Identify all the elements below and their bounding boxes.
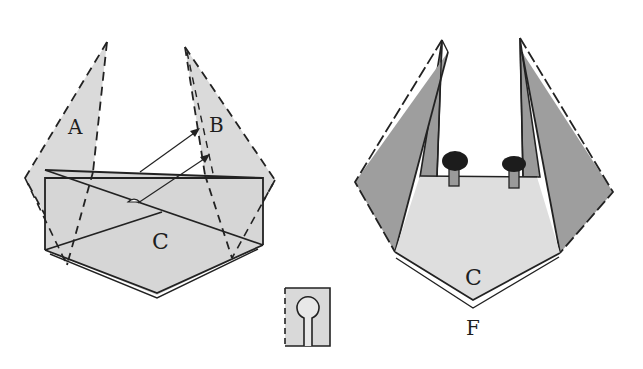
caption-f: F — [466, 316, 480, 340]
label-flap-a: A — [67, 115, 83, 139]
keyhole-fold-symbol — [285, 288, 330, 346]
label-body-c-left: C — [152, 229, 169, 254]
right-step-diagram: C F — [355, 38, 613, 340]
fold-arrow-upper — [140, 128, 200, 172]
label-flap-b: B — [209, 113, 224, 137]
label-body-c-right: C — [465, 265, 482, 290]
origami-diagram: A B C — [0, 0, 643, 369]
left-step-diagram: A B C — [25, 42, 275, 298]
